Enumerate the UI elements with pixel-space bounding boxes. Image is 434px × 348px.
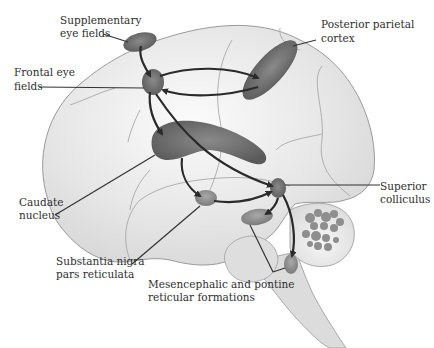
frontal-eye-fields-region <box>142 69 164 95</box>
label-supplementary-eye-fields: Supplementary eye fields <box>60 14 145 39</box>
label-superior-colliculus: Superior colliculus <box>380 180 430 205</box>
pontine-reticular-formation-region <box>284 254 298 274</box>
label-posterior-parietal-cortex: Posterior parietal cortex <box>321 18 418 44</box>
midbrain-lobe <box>224 236 278 282</box>
saccade-pathway-diagram: Supplementary eye fields Frontal eye fie… <box>0 0 434 348</box>
substantia-nigra-region <box>195 190 217 206</box>
label-frontal-eye-fields: Frontal eye fields <box>14 66 78 92</box>
cerebellum <box>290 203 354 266</box>
label-caudate-nucleus: Caudate nucleus <box>19 196 67 221</box>
label-substantia-nigra: Substantia nigra pars reticulata <box>56 255 148 280</box>
